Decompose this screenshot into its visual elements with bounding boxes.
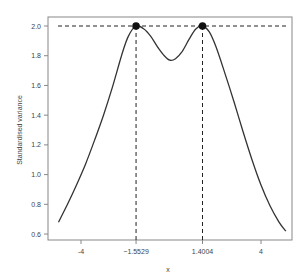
variance-curve (59, 26, 286, 231)
y-tick-label: 1.4 (31, 112, 41, 119)
y-tick-label: 1.0 (31, 171, 41, 178)
plot-frame (48, 17, 292, 240)
y-axis: 0.60.81.01.21.41.61.82.0 (31, 23, 48, 238)
y-tick-label: 1.2 (31, 141, 41, 148)
x-axis-label: x (166, 266, 170, 273)
y-axis-label: Standardised variance (16, 95, 23, 165)
x-axis: -4−1.55291.40044 (78, 240, 263, 255)
x-tick-label: −1.5529 (123, 248, 149, 255)
x-tick-label: -4 (78, 248, 84, 255)
y-tick-label: 1.6 (31, 82, 41, 89)
annotations (58, 26, 286, 240)
y-tick-label: 0.8 (31, 201, 41, 208)
max-point-marker (199, 22, 207, 30)
max-point-marker (132, 22, 140, 30)
x-tick-label: 1.4004 (192, 248, 214, 255)
line-chart: 0.60.81.01.21.41.61.82.0 -4−1.55291.4004… (0, 0, 308, 279)
y-tick-label: 2.0 (31, 23, 41, 30)
y-tick-label: 0.6 (31, 231, 41, 238)
x-tick-label: 4 (259, 248, 263, 255)
y-tick-label: 1.8 (31, 52, 41, 59)
